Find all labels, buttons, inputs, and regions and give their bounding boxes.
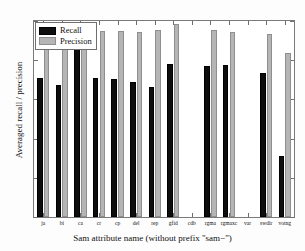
bar-precision	[211, 30, 217, 217]
x-axis-title: Sam attribute name (without prefix "sam−…	[0, 233, 305, 244]
bar-precision	[155, 30, 161, 217]
bar-group	[93, 21, 105, 217]
x-tick-label: rgmaxc	[221, 220, 237, 226]
bar-group	[130, 21, 142, 217]
bar-precision	[137, 32, 143, 217]
x-tick-label: rep	[151, 220, 158, 226]
bar-precision	[267, 34, 273, 217]
legend-item-precision: Precision	[39, 36, 92, 46]
bar-group	[223, 21, 235, 217]
bar-precision	[81, 32, 87, 217]
legend-label-precision: Precision	[60, 37, 92, 46]
bar-recall	[130, 82, 136, 217]
bar-recall	[37, 78, 43, 217]
bar-precision	[230, 32, 236, 217]
legend-swatch-precision	[39, 37, 56, 45]
x-tick-label: var	[244, 220, 251, 226]
bar-precision	[118, 31, 124, 217]
bar-group	[186, 21, 198, 217]
bar-recall	[56, 85, 62, 217]
bar-group	[204, 21, 216, 217]
bar-group	[149, 21, 161, 217]
bar-group	[111, 21, 123, 217]
bar-group	[279, 21, 291, 217]
bar-precision	[62, 27, 68, 217]
x-axis-tick-labels: jabicacrcpdelrepgfidcdbrgmargmaxcvarswdi…	[33, 220, 295, 232]
x-tick-label: cp	[115, 220, 120, 226]
x-tick-label: votng	[278, 220, 291, 226]
legend-label-recall: Recall	[60, 26, 82, 35]
legend-swatch-recall	[39, 27, 56, 35]
bar-recall	[204, 66, 210, 217]
x-tick-label: cr	[97, 220, 101, 226]
bar-recall	[74, 48, 80, 217]
bar-series-container	[34, 21, 294, 217]
y-tick-right	[290, 217, 294, 218]
chart-legend: Recall Precision	[35, 22, 97, 50]
bar-group	[241, 21, 253, 217]
bar-group	[74, 21, 86, 217]
x-tick-label: swdir	[260, 220, 272, 226]
bar-group	[260, 21, 272, 217]
bar-recall	[149, 87, 155, 217]
x-tick-label: bi	[60, 220, 64, 226]
x-tick-label: cdb	[188, 220, 196, 226]
bar-recall	[223, 65, 229, 217]
bar-precision	[174, 24, 180, 217]
y-axis-title: Averaged recall / precision	[14, 20, 24, 200]
chart-figure: 00.20.40.60.81 jabicacrcpdelrepgfidcdbrg…	[0, 0, 305, 251]
bar-recall	[111, 79, 117, 217]
x-tick-label: ca	[78, 220, 83, 226]
bar-group	[56, 21, 68, 217]
x-tick-label: rgma	[205, 220, 216, 226]
bar-recall	[260, 73, 266, 217]
bar-precision	[100, 31, 106, 217]
plot-area: 00.20.40.60.81	[33, 20, 295, 218]
y-tick	[34, 217, 38, 218]
bar-recall	[279, 156, 285, 217]
bar-recall	[93, 78, 99, 217]
bar-precision	[44, 27, 50, 217]
bar-precision	[285, 53, 291, 217]
bar-recall	[167, 64, 173, 217]
bar-group	[37, 21, 49, 217]
bar-group	[167, 21, 179, 217]
x-tick-label: ja	[41, 220, 45, 226]
x-tick-label: gfid	[169, 220, 178, 226]
legend-item-recall: Recall	[39, 26, 92, 36]
x-tick-label: del	[133, 220, 140, 226]
